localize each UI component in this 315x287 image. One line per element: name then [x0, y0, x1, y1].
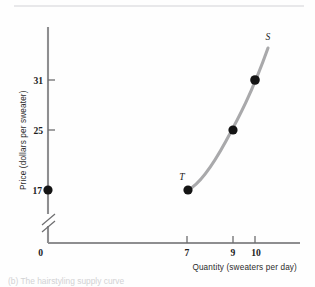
- x-tick-label-10: 10: [251, 247, 261, 258]
- y-tick-label-25: 25: [33, 125, 43, 136]
- figure-panel: 31 25 17 0 7 9 10 S T Price (dollars per…: [0, 0, 315, 287]
- point-label-T: T: [179, 171, 185, 182]
- supply-curve-chart: 31 25 17 0 7 9 10 S T Price (dollars per…: [0, 0, 315, 287]
- y-tick-label-31: 31: [33, 75, 43, 86]
- data-point-9-25: [228, 125, 237, 134]
- y-tick-label-17: 17: [32, 185, 42, 196]
- data-point-T: [183, 185, 192, 194]
- figure-caption: (b) The hairstyling supply curve: [8, 276, 248, 287]
- y-axis-title: Price (dollars per sweater): [19, 90, 28, 190]
- data-point-origin-17: [43, 185, 52, 194]
- x-axis-title: Quantity (sweaters per day): [192, 263, 297, 272]
- x-tick-label-9: 9: [231, 247, 236, 258]
- origin-label: 0: [38, 247, 43, 258]
- supply-curve-path: [188, 48, 268, 190]
- curve-label-S: S: [266, 31, 271, 42]
- chart-svg: 31 25 17 0 7 9 10 S T Price (dollars per…: [0, 0, 315, 287]
- data-point-10-31: [250, 75, 260, 85]
- x-tick-label-7: 7: [185, 247, 190, 258]
